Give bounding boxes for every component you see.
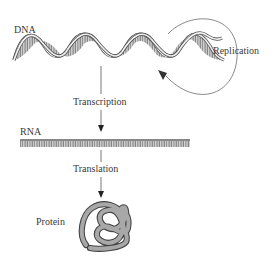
protein-label: Protein xyxy=(36,216,65,227)
rna-strand xyxy=(20,139,190,147)
arrowhead-icon xyxy=(98,125,104,132)
transcription-label: Transcription xyxy=(73,96,127,107)
replication-label: Replication xyxy=(213,45,259,56)
translation-label: Translation xyxy=(73,163,118,174)
arrowhead-icon xyxy=(158,70,167,80)
dna-helix xyxy=(14,33,224,60)
translation-arrow xyxy=(98,150,104,198)
arrowhead-icon xyxy=(98,191,104,198)
protein-structure xyxy=(82,204,129,249)
dna-label: DNA xyxy=(14,24,36,35)
rna-label: RNA xyxy=(20,126,41,137)
